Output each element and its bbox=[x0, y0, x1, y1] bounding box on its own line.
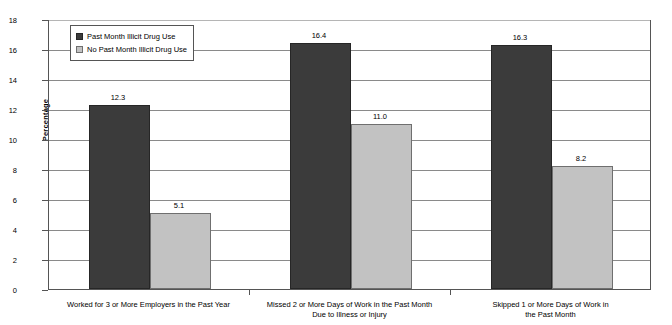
y-tick-label: 0 bbox=[0, 286, 17, 295]
x-category-label: Skipped 1 or More Days of Work in the Pa… bbox=[490, 300, 612, 320]
y-tick-label: 4 bbox=[0, 226, 17, 235]
x-tick-mark bbox=[249, 290, 250, 295]
bar-value-label: 12.3 bbox=[111, 93, 126, 102]
bar bbox=[351, 124, 412, 289]
legend-label: Past Month Illicit Drug Use bbox=[87, 32, 175, 41]
legend-item: Past Month Illicit Drug Use bbox=[76, 30, 187, 43]
bar-value-label: 8.2 bbox=[576, 154, 586, 163]
y-tick-mark bbox=[42, 290, 48, 291]
y-tick-label: 6 bbox=[0, 196, 17, 205]
bar bbox=[552, 166, 613, 289]
bar bbox=[150, 213, 211, 290]
legend-swatch-dark-icon bbox=[76, 33, 83, 40]
legend-swatch-light-icon bbox=[76, 46, 83, 53]
x-category-label: Missed 2 or More Days of Work in the Pas… bbox=[267, 300, 432, 320]
bar bbox=[89, 105, 150, 290]
x-category-label: Worked for 3 or More Employers in the Pa… bbox=[67, 300, 230, 310]
x-tick-mark bbox=[450, 290, 451, 295]
y-tick-label: 14 bbox=[0, 76, 17, 85]
y-tick-label: 10 bbox=[0, 136, 17, 145]
gridline bbox=[49, 20, 650, 21]
legend-label: No Past Month Illicit Drug Use bbox=[87, 45, 187, 54]
y-tick-label: 8 bbox=[0, 166, 17, 175]
legend: Past Month Illicit Drug UseNo Past Month… bbox=[70, 25, 194, 61]
bar bbox=[491, 45, 552, 290]
y-tick-label: 2 bbox=[0, 256, 17, 265]
legend-item: No Past Month Illicit Drug Use bbox=[76, 43, 187, 56]
bar-value-label: 11.0 bbox=[373, 112, 387, 121]
y-tick-label: 12 bbox=[0, 106, 17, 115]
bar-value-label: 16.4 bbox=[312, 31, 327, 40]
y-tick-label: 18 bbox=[0, 16, 17, 25]
bar-value-label: 16.3 bbox=[513, 33, 528, 42]
y-tick-label: 16 bbox=[0, 46, 17, 55]
bar bbox=[290, 43, 351, 289]
bar-chart: Percentage 024681012141618 12.35.116.411… bbox=[0, 0, 672, 325]
bar-value-label: 5.1 bbox=[174, 201, 184, 210]
